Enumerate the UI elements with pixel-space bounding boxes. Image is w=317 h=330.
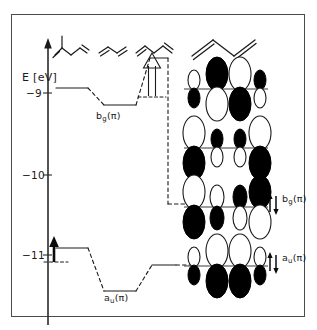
level-label-bg-right-pi: (π) (293, 193, 307, 204)
level-label-au-left-pi: (π) (115, 292, 129, 303)
electron-pair-au (267, 252, 278, 274)
molecule-butadiene-skeleton-b (136, 43, 173, 56)
axis-tick-label-minus10: −10 (22, 170, 45, 181)
mo-psi3 (183, 116, 271, 180)
mo-psi1-au (184, 234, 268, 298)
molecule-butadiene-skeleton-a (99, 47, 127, 56)
orbital-energy-diagram-figure: E [eV] −9 −10 −11 bg(π) au(π) bg(π) au(π… (0, 0, 317, 330)
molecule-butadiene-skeleton-large (192, 40, 256, 60)
level-label-au-right: au(π) (282, 253, 306, 265)
mo-psi4 (184, 57, 268, 121)
molecule-isoprene-skeleton (53, 36, 89, 58)
level-label-bg-left-pi: (π) (107, 110, 121, 121)
diagram-canvas (0, 0, 317, 330)
mo-psi2-bg (183, 175, 271, 239)
correlation-lower-series (44, 248, 190, 291)
axis-tick-label-minus11: −11 (22, 250, 45, 261)
filled-shift-arrow (49, 236, 59, 262)
level-label-au-left: au(π) (104, 293, 128, 305)
level-label-bg-right: bg(π) (282, 194, 307, 206)
level-label-bg-left: bg(π) (96, 111, 121, 123)
axis-title-energy: E [eV] (22, 72, 57, 83)
axis-tick-label-minus9: −9 (26, 88, 42, 99)
hollow-shift-arrow (144, 53, 161, 96)
correlation-upper-series (56, 58, 186, 204)
level-label-au-right-pi: (π) (293, 252, 307, 263)
